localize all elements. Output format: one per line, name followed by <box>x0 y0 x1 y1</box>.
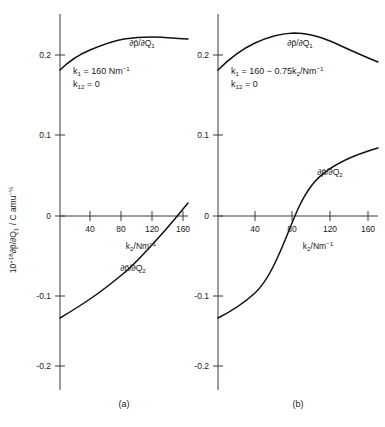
figure-container: 10+18∂p̄/∂Q1 / C amu−½ 0.2 0.1 0 -0.1 -0… <box>0 0 385 427</box>
panel-b-annotation: k1 = 160 − 0.75k2/Nm−1 k12 = 0 <box>231 65 324 90</box>
panel-b-ytick-label-1: 0.1 <box>197 130 209 140</box>
panel-a-ytick-label-3: -0.1 <box>36 291 51 301</box>
y-axis-label: 10+18∂p̄/∂Q1 / C amu−½ <box>7 187 19 273</box>
panel-a-ytick-label-1: 0.1 <box>39 130 51 140</box>
panel-b-xtick-label-3: 160 <box>361 224 375 234</box>
panel-b-annotation-line2: k12 = 0 <box>231 79 258 90</box>
panel-a-xtick-label-0: 40 <box>85 224 95 234</box>
panel-b-ytick-label-4: -0.2 <box>194 361 209 371</box>
panel-a-ytick-label-2: 0 <box>46 211 51 221</box>
panel-a-curve-dpdq2 <box>60 203 188 318</box>
panel-b-xtick-label-0: 40 <box>250 224 260 234</box>
panel-b-x-axis-label: k2/Nm−1 <box>303 240 334 252</box>
panel-a-xtick-label-2: 120 <box>145 224 159 234</box>
panel-a-annotation-line2: k12 = 0 <box>73 79 100 90</box>
panel-a-xtick-label-3: 160 <box>176 224 190 234</box>
panel-a-annotation: k1 = 160 Nm−1 k12 = 0 <box>73 65 130 90</box>
figure-svg: 10+18∂p̄/∂Q1 / C amu−½ 0.2 0.1 0 -0.1 -0… <box>0 0 385 427</box>
panel-b-xtick-label-2: 120 <box>323 224 337 234</box>
panel-b-caption: (b) <box>293 399 304 409</box>
panel-a: 0.2 0.1 0 -0.1 -0.2 40 80 120 160 k2/Nm−… <box>36 14 190 409</box>
panel-a-ytick-label-4: -0.2 <box>36 361 51 371</box>
panel-a-annotation-line1: k1 = 160 Nm−1 <box>73 65 130 77</box>
panel-a-ytick-label-0: 0.2 <box>39 50 51 60</box>
panel-b-curve1-label: ∂p̄/∂Q1 <box>287 38 313 49</box>
panel-a-x-axis-label: k2/Nm−1 <box>126 240 157 252</box>
y-axis-label-group: 10+18∂p̄/∂Q1 / C amu−½ <box>7 187 19 273</box>
panel-b-ytick-label-0: 0.2 <box>197 50 209 60</box>
panel-a-curve1-label: ∂p̄/∂Q1 <box>129 38 155 49</box>
panel-b: 0.2 0.1 0 -0.1 -0.2 40 80 120 160 k2/Nm−… <box>194 14 378 409</box>
panel-b-annotation-line1: k1 = 160 − 0.75k2/Nm−1 <box>231 65 324 77</box>
panel-b-ytick-label-2: 0 <box>204 211 209 221</box>
panel-b-curve-dpdq2 <box>218 148 378 318</box>
panel-a-xtick-label-1: 80 <box>116 224 126 234</box>
panel-a-caption: (a) <box>119 399 130 409</box>
panel-a-curve2-label: ∂p̄/∂Q2 <box>120 263 146 274</box>
panel-b-ytick-label-3: -0.1 <box>194 291 209 301</box>
panel-b-curve2-label: ∂p̄/∂Q2 <box>317 167 343 178</box>
